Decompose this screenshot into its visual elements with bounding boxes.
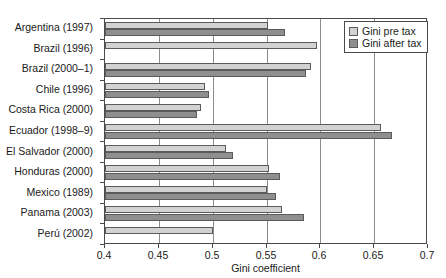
x-axis-tick xyxy=(212,244,213,248)
bar xyxy=(105,173,280,180)
legend-label-pre-tax: Gini pre tax xyxy=(362,25,416,37)
bar xyxy=(105,124,381,131)
bar xyxy=(105,186,267,193)
bar xyxy=(105,63,311,70)
bar xyxy=(105,91,209,98)
y-axis-label: Costa Rica (2000) xyxy=(8,104,93,115)
y-axis-label: Ecuador (1998–9) xyxy=(9,125,93,136)
y-axis-label: Panama (2003) xyxy=(21,207,93,218)
chart-legend: Gini pre tax Gini after tax xyxy=(344,21,428,53)
bar xyxy=(105,29,285,36)
bar xyxy=(105,104,201,111)
x-axis-tick xyxy=(266,244,267,248)
x-axis-tick-label: 0.45 xyxy=(138,249,178,261)
bar xyxy=(105,165,269,172)
x-axis-tick-label: 0.6 xyxy=(299,249,339,261)
bar xyxy=(105,83,205,90)
bar xyxy=(105,152,233,159)
legend-label-after-tax: Gini after tax xyxy=(362,37,422,49)
y-axis-label: Honduras (2000) xyxy=(14,166,93,177)
y-axis-label: Perú (2002) xyxy=(38,228,93,239)
y-axis-label: Brazil (1996) xyxy=(33,43,93,54)
x-axis-tick-label: 0.5 xyxy=(192,249,232,261)
bar xyxy=(105,70,306,77)
legend-swatch-pre-tax xyxy=(349,27,358,36)
bar xyxy=(105,42,317,49)
bar xyxy=(105,227,213,234)
legend-item-gini-after-tax: Gini after tax xyxy=(349,37,422,49)
x-axis-tick-label: 0.65 xyxy=(353,249,393,261)
bar xyxy=(105,145,226,152)
figure-caption-cropped xyxy=(0,272,446,278)
x-axis-tick xyxy=(104,244,105,248)
bar xyxy=(105,132,392,139)
bar xyxy=(105,206,282,213)
y-axis-category-labels: Argentina (1997)Brazil (1996)Brazil (200… xyxy=(0,18,100,244)
y-axis-label: Mexico (1989) xyxy=(26,187,93,198)
x-axis-tick-label: 0.7 xyxy=(407,249,446,261)
legend-swatch-after-tax xyxy=(349,39,358,48)
bar xyxy=(105,214,304,221)
x-axis-tick-label: 0.4 xyxy=(84,249,124,261)
y-axis-label: Chile (1996) xyxy=(36,84,93,95)
x-axis-tick xyxy=(427,244,428,248)
bar xyxy=(105,22,268,29)
bar xyxy=(105,193,276,200)
x-axis-tick xyxy=(373,244,374,248)
legend-item-gini-pre-tax: Gini pre tax xyxy=(349,25,422,37)
y-axis-label: Argentina (1997) xyxy=(15,22,93,33)
bar xyxy=(105,111,197,118)
x-axis-tick-label: 0.55 xyxy=(246,249,286,261)
gini-coefficient-bar-chart: Argentina (1997)Brazil (1996)Brazil (200… xyxy=(0,0,446,278)
x-axis-tick xyxy=(319,244,320,248)
x-axis-tick xyxy=(158,244,159,248)
y-axis-label: Brazil (2000–1) xyxy=(22,63,93,74)
y-axis-label: El Salvador (2000) xyxy=(6,146,93,157)
